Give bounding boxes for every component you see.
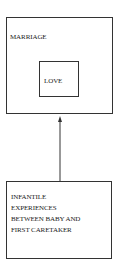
infantile-experiences-label: INFANTILE EXPERIENCES BETWEEN BABY AND F…	[11, 192, 80, 236]
bottom-line-1: INFANTILE	[11, 192, 80, 203]
bottom-line-3: BETWEEN BABY AND	[11, 214, 80, 225]
bottom-line-4: FIRST CARETAKER	[11, 225, 80, 236]
bottom-line-2: EXPERIENCES	[11, 203, 80, 214]
